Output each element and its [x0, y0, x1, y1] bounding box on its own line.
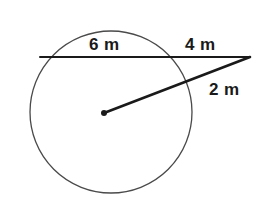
label-chord-outer-4m: 4 m — [185, 36, 216, 53]
circle-shape — [30, 31, 192, 193]
geometry-canvas — [0, 0, 265, 208]
center-point-dot — [101, 110, 107, 116]
label-chord-inner-6m: 6 m — [89, 36, 120, 53]
geometry-figure: 6 m 4 m 2 m — [0, 0, 265, 208]
label-secant-outer-2m: 2 m — [209, 81, 240, 98]
